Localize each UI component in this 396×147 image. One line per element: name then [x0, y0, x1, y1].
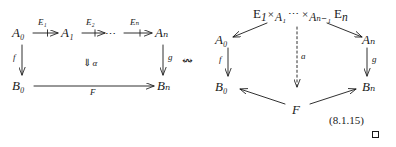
apex-sub-1: 1	[261, 11, 267, 23]
arrow-apex-A0	[233, 23, 267, 37]
left-arrow-label-E1: E₁	[38, 18, 47, 27]
apex-sub-An-1: Aₙ₋₁	[309, 11, 331, 23]
right-object-Bn: Bₙ	[362, 80, 375, 93]
right-apex-expression: E1×A₁⋯×Aₙ₋₁En	[253, 5, 348, 24]
left-arrow-label-En: Eₙ	[130, 18, 139, 27]
right-label-f: f	[219, 55, 222, 64]
left-arrow-label-E2: E₂	[86, 18, 95, 27]
right-object-F: F	[292, 103, 300, 116]
math-figure: A₀ A₁ ⋯ Aₙ E₁ E₂ Eₙ f g ⇓α B₀ Bₙ F ↭ E1×…	[0, 0, 396, 147]
right-object-B0: B₀	[215, 80, 227, 93]
right-label-a: a	[301, 52, 306, 61]
left-arrow-label-F: F	[90, 88, 96, 97]
left-top-ellipsis: ⋯	[105, 28, 117, 41]
arrow-F-B0	[240, 89, 285, 104]
left-object-B0: B₀	[12, 79, 24, 92]
apex-sub-A1: A₁	[275, 11, 286, 23]
apex-part-En: E	[334, 6, 342, 21]
apex-ellipsis: ⋯	[288, 8, 299, 20]
wavy-arrow-icon: ↭	[182, 54, 193, 67]
apex-part-E1: E	[253, 6, 261, 21]
arrow-F-Bn	[310, 89, 356, 104]
left-object-A1: A₁	[61, 26, 73, 39]
fiber-product-times-icon-2: ×	[302, 8, 308, 20]
right-object-An: Aₙ	[362, 33, 375, 46]
apex-sub-n: n	[342, 11, 348, 23]
left-object-A0: A₀	[12, 26, 24, 39]
equation-number: (8.1.15)	[329, 114, 364, 126]
left-object-An: Aₙ	[155, 26, 168, 39]
left-label-f: f	[13, 53, 16, 62]
two-cell-label-alpha: α	[92, 58, 97, 68]
fiber-product-times-icon-1: ×	[268, 8, 274, 20]
left-label-g: g	[168, 53, 173, 62]
left-object-Bn: Bₙ	[157, 79, 170, 92]
right-object-A0: A₀	[215, 33, 227, 46]
arrow-apex-An	[327, 23, 362, 37]
two-cell-double-arrow-icon: ⇓	[83, 57, 91, 68]
left-two-cell: ⇓α	[83, 53, 97, 69]
qed-tombstone-icon	[372, 131, 379, 138]
right-label-g: g	[372, 55, 377, 64]
